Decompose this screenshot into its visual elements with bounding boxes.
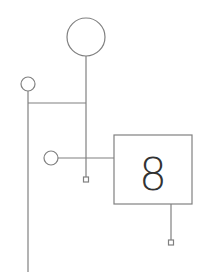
diagram-canvas: 8 xyxy=(0,0,204,272)
output-square-terminal[interactable] xyxy=(169,240,174,245)
large-circle-node[interactable] xyxy=(67,18,105,56)
small-square-terminal[interactable] xyxy=(84,177,89,182)
middle-circle-node[interactable] xyxy=(44,151,58,165)
small-circle-node[interactable] xyxy=(21,77,35,91)
box-label: 8 xyxy=(139,149,167,200)
